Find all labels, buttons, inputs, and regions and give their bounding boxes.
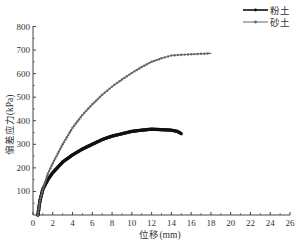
y-tick-label: 700 [17,45,31,55]
legend-label-silt: 粉土 [270,5,290,16]
data-point-marker [133,70,135,72]
x-tick-label: 2 [51,218,56,228]
x-tick-label: 26 [286,218,296,228]
legend: 粉土 砂土 [243,5,290,28]
legend-label-sand: 砂土 [270,17,290,28]
chart-svg: 100200300400500600700800 024681012141618… [0,0,297,247]
data-point-marker [37,211,39,213]
data-point-marker [121,78,123,80]
data-point-marker [43,183,45,185]
data-point-marker [104,92,106,94]
data-point-marker [69,131,71,133]
data-point-marker [52,162,54,164]
x-axis-title: 位移(mm) [139,229,180,241]
chart-container: 100200300400500600700800 024681012141618… [0,0,297,247]
data-point-marker [39,200,41,202]
data-point-marker [58,150,60,152]
data-point-marker [57,153,59,155]
data-point-marker [108,87,110,89]
data-point-marker [66,136,68,138]
data-point-marker [55,155,57,157]
data-point-marker [48,170,50,172]
data-point-marker [63,141,65,143]
data-point-marker [43,185,45,187]
y-tick-label: 400 [17,116,31,126]
data-point-marker [164,56,166,58]
data-point-marker [71,127,73,129]
data-point-marker [38,208,40,210]
y-tick-label: 200 [17,163,31,173]
x-tick-label: 10 [127,218,137,228]
y-axis-title: 偏差应力(kPa) [4,95,16,156]
data-point-marker [170,54,172,56]
data-point-marker [93,101,95,103]
data-point-marker [138,67,140,69]
data-point-marker [126,75,128,77]
data-point-marker [62,143,64,145]
y-tick-label: 800 [17,22,31,32]
data-point-marker [91,103,93,105]
data-point-marker [113,84,115,86]
data-point-marker [70,129,72,131]
data-point-marker [143,65,145,67]
data-point-marker [128,73,130,75]
data-point-marker [193,53,195,55]
y-tick-label: 600 [17,69,31,79]
data-point-marker [146,63,148,65]
x-tick-label: 0 [31,218,36,228]
data-point-marker [80,116,82,118]
data-point-marker [206,52,208,54]
data-point-marker [153,60,155,62]
x-tick-label: 16 [187,218,197,228]
silt-line [38,129,181,215]
data-point-marker [101,94,103,96]
data-point-marker [45,178,47,180]
data-point-marker [78,118,80,120]
data-point-marker [75,122,77,124]
legend-marker-silt [254,9,257,12]
data-point-marker [81,114,83,116]
data-point-marker [136,69,138,71]
data-point-marker [76,120,78,122]
data-point-marker [97,97,99,99]
x-tick-label: 6 [90,218,95,228]
series-layer [36,52,211,216]
data-point-marker [190,53,192,55]
data-point-marker [41,191,43,193]
data-point-marker [180,54,182,56]
data-point-marker [54,157,56,159]
x-tick-label: 22 [246,218,255,228]
x-ticks: 02468101214161820222426 [31,212,295,228]
data-point-marker [123,77,125,79]
data-point-marker [87,107,89,109]
data-point-marker [49,167,51,169]
data-point-marker [155,59,157,61]
y-tick-label: 100 [17,186,31,196]
data-point-marker [150,61,152,63]
data-point-marker [160,57,162,59]
data-point-marker [42,188,44,190]
data-point-marker [167,55,169,57]
data-point-marker [158,58,160,60]
legend-item-silt: 粉土 [243,5,290,16]
data-point-marker [38,205,40,207]
data-point-marker [67,134,69,136]
data-point-marker [40,197,42,199]
data-point-marker [99,96,101,98]
data-point-marker [177,54,179,56]
data-point-marker [73,125,75,127]
data-point-marker [50,165,52,167]
data-point-marker [118,80,120,82]
data-point-marker [187,53,189,55]
data-point-marker [64,138,66,140]
data-point-marker [178,131,181,134]
data-point-marker [40,194,42,196]
data-point-marker [106,90,108,92]
data-point-marker [37,214,39,216]
x-tick-label: 8 [110,218,115,228]
x-tick-label: 20 [226,218,236,228]
data-point-marker [53,160,55,162]
data-point-marker [47,173,49,175]
data-point-marker [200,53,202,55]
x-tick-label: 18 [206,218,216,228]
